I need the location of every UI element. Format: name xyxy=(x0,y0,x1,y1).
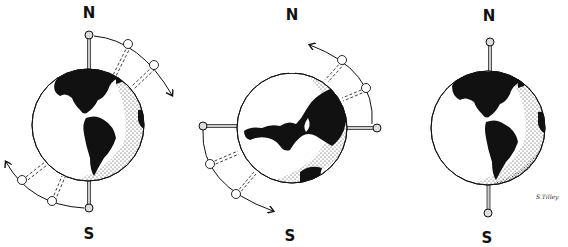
globe-middle xyxy=(199,45,381,211)
south-label-right: S xyxy=(482,229,493,247)
south-pole-ball-icon xyxy=(484,209,492,217)
south-label-middle: S xyxy=(285,227,296,245)
artist-signature: S.Tilley xyxy=(536,193,559,200)
pole-ball-right-icon xyxy=(373,124,381,132)
north-pole-ball-icon xyxy=(85,31,93,39)
globes-illustration xyxy=(0,0,568,247)
globe-left xyxy=(6,31,172,212)
diagram-canvas: N S N S N S S.Tilley xyxy=(0,0,568,247)
pole-ball-left-icon xyxy=(199,122,207,130)
north-label-middle: N xyxy=(286,6,299,24)
south-pole-ball-icon xyxy=(85,204,93,212)
north-label-right: N xyxy=(483,7,496,25)
north-label-left: N xyxy=(83,4,96,22)
globe-right xyxy=(431,38,550,217)
south-label-left: S xyxy=(84,225,95,243)
north-pole-ball-icon xyxy=(486,38,494,46)
